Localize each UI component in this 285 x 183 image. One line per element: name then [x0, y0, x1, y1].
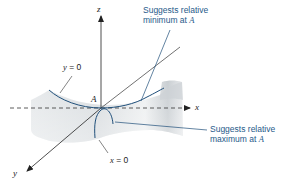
- leader-y-zero: [60, 76, 72, 93]
- annotation-minimum-line1: Suggests relative: [143, 5, 208, 15]
- annotation-maximum: Suggests relative maximum at A: [210, 124, 275, 144]
- point-a-label: A: [91, 94, 97, 104]
- x-axis-label: x: [195, 102, 199, 112]
- annotation-maximum-line1: Suggests relative: [210, 124, 275, 134]
- y-zero-label: y = 0: [63, 62, 81, 72]
- x-zero-label: x = 0: [110, 155, 128, 165]
- annotation-minimum: Suggests relative minimum at A: [143, 5, 208, 25]
- leader-x-zero: [99, 140, 108, 153]
- saddle-diagram: [0, 0, 285, 183]
- annotation-maximum-line2: maximum at A: [210, 134, 275, 144]
- annotation-minimum-line2: minimum at A: [143, 15, 208, 25]
- y-axis-label: y: [13, 168, 17, 178]
- z-axis-label: z: [97, 4, 101, 14]
